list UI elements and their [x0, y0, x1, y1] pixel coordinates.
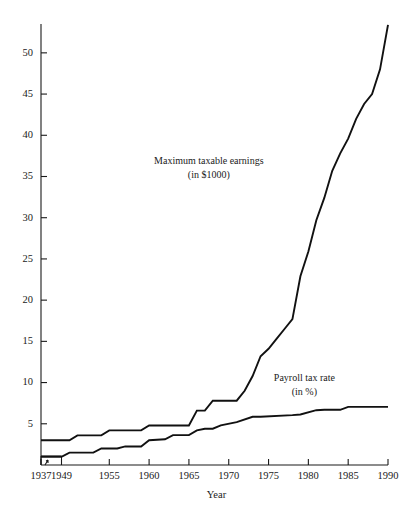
x-axis: 1937194919551960196519701975198019851990 — [31, 456, 399, 481]
x-axis-tick-label: 1970 — [218, 470, 239, 481]
y-axis-tick-label: 20 — [23, 294, 34, 305]
y-axis-tick-label: 5 — [28, 418, 33, 429]
x-axis-tick-label: 1985 — [338, 470, 359, 481]
x-axis-tick-label: 1980 — [298, 470, 319, 481]
y-axis-tick-label: 50 — [23, 47, 34, 58]
y-axis-tick-label: 45 — [23, 88, 34, 99]
x-axis-tick-label: 1960 — [139, 470, 160, 481]
series-line-payroll-tax-rate — [41, 407, 388, 457]
chart-figure: 5101520253035404550 19371949195519601965… — [0, 0, 404, 508]
y-axis-tick-label: 15 — [23, 335, 34, 346]
max-earnings-label-line1: Maximum taxable earnings — [154, 155, 264, 166]
x-axis-title: Year — [207, 489, 227, 500]
series-line-maximum-taxable-earnings — [41, 25, 388, 440]
x-axis-tick-label: 1955 — [99, 470, 120, 481]
y-axis: 5101520253035404550 — [23, 24, 48, 465]
y-axis-tick-label: 35 — [23, 170, 34, 181]
x-axis-tick-label: 1975 — [258, 470, 279, 481]
y-axis-tick-label: 30 — [23, 212, 34, 223]
payroll-rate-label-line2: (in %) — [292, 386, 317, 398]
axis-title-group: Year — [207, 489, 227, 500]
payroll-rate-label-line1: Payroll tax rate — [274, 372, 336, 383]
y-axis-tick-label: 10 — [23, 376, 34, 387]
x-axis-tick-label: 1937 — [31, 470, 52, 481]
max-earnings-label-line2: (in $1000) — [188, 169, 230, 181]
annotation-group: Maximum taxable earnings(in $1000)Payrol… — [154, 155, 335, 398]
x-axis-tick-label: 1965 — [178, 470, 199, 481]
x-axis-tick-label: 1990 — [378, 470, 399, 481]
y-axis-tick-label: 40 — [23, 129, 34, 140]
chart-canvas: 5101520253035404550 19371949195519601965… — [0, 0, 404, 508]
y-axis-tick-label: 25 — [23, 253, 34, 264]
x-axis-tick-label: 1949 — [51, 470, 72, 481]
data-series-group — [41, 25, 388, 457]
axis-break-arrow-icon — [45, 460, 48, 465]
